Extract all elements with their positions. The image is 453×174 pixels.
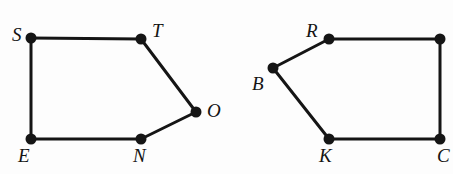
vertex-label-c: C (437, 146, 450, 165)
geometry-figure-canvas: STONERCKB (0, 0, 453, 174)
vertex-label-s: S (12, 25, 22, 44)
vertex-label-t: T (152, 21, 163, 40)
vertex-dot-e (26, 134, 37, 145)
vertex-dot-t (136, 34, 147, 45)
edge-o-n (141, 112, 196, 139)
vertex-label-n: N (133, 146, 146, 165)
vertex-dot-r (324, 34, 335, 45)
vertex-dot-o (191, 107, 202, 118)
edges-layer (31, 38, 440, 139)
edge-t-o (141, 39, 196, 112)
vertex-dot-n (136, 134, 147, 145)
vertex-dot-e2 (435, 34, 446, 45)
vertex-label-e: E (18, 146, 30, 165)
edge-s-t (31, 38, 141, 39)
polygons-svg (0, 0, 453, 174)
edge-k-b (273, 68, 329, 139)
vertex-dot-k (324, 134, 335, 145)
vertex-dot-b (268, 63, 279, 74)
vertex-label-r: R (306, 21, 318, 40)
vertex-label-k: K (319, 146, 332, 165)
vertex-dot-s (26, 33, 37, 44)
edge-b-r (273, 39, 329, 68)
vertices-layer (26, 33, 446, 145)
vertex-dot-c (435, 134, 446, 145)
vertex-label-o: O (207, 101, 221, 120)
vertex-label-b: B (252, 74, 264, 93)
